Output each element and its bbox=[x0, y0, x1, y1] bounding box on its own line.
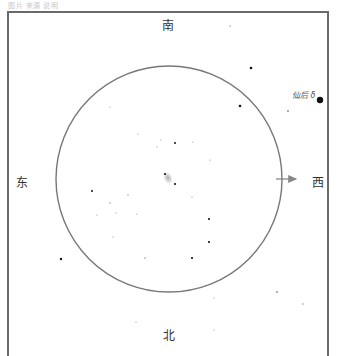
star bbox=[239, 105, 242, 108]
star bbox=[144, 257, 145, 258]
star bbox=[135, 321, 136, 322]
star-group bbox=[60, 25, 323, 330]
direction-north: 北 bbox=[163, 326, 175, 343]
star bbox=[192, 141, 193, 142]
star bbox=[209, 159, 210, 160]
star bbox=[213, 297, 214, 298]
star bbox=[276, 291, 278, 293]
star bbox=[191, 196, 192, 197]
star bbox=[156, 146, 157, 147]
star bbox=[174, 142, 176, 144]
star bbox=[213, 329, 214, 330]
star bbox=[317, 97, 323, 103]
star bbox=[91, 190, 93, 192]
star bbox=[174, 183, 176, 185]
star bbox=[208, 241, 210, 243]
star bbox=[136, 213, 137, 214]
star bbox=[250, 67, 253, 70]
direction-east: 东 bbox=[16, 173, 28, 190]
star bbox=[60, 258, 62, 260]
star bbox=[127, 194, 128, 195]
star bbox=[109, 106, 110, 107]
direction-west: 西 bbox=[312, 173, 324, 190]
star bbox=[191, 257, 193, 259]
star bbox=[96, 214, 97, 215]
star bbox=[160, 139, 161, 140]
star bbox=[137, 133, 138, 134]
star bbox=[287, 110, 289, 112]
star bbox=[109, 202, 110, 203]
star bbox=[164, 173, 166, 175]
star bbox=[115, 212, 116, 213]
galaxy-blob bbox=[161, 170, 176, 187]
direction-south: 南 bbox=[162, 16, 174, 33]
star bbox=[229, 25, 230, 26]
star bbox=[112, 236, 113, 237]
star-label-delta-cas: 仙后 δ bbox=[292, 89, 315, 100]
star bbox=[208, 218, 210, 220]
star bbox=[302, 303, 303, 304]
